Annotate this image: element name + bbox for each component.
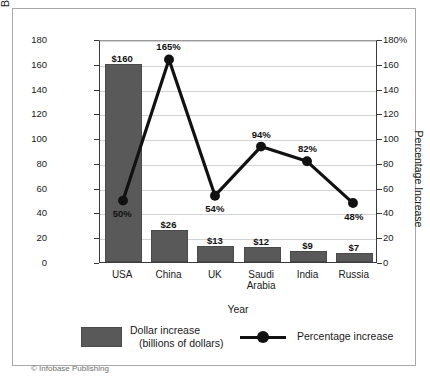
y-tick-right: 100 (383, 133, 429, 144)
y-tick-left: 40 (7, 207, 47, 218)
y-tick-mark-right (377, 164, 382, 165)
y-tick-left: 0 (7, 257, 47, 268)
x-axis-title: Year (99, 303, 377, 315)
line-value-label: 50% (92, 208, 152, 219)
y-tick-right: 60 (383, 183, 429, 194)
legend-bar-swatch (81, 327, 122, 347)
y-tick-left: 120 (7, 108, 47, 119)
chart-figure: Billions of U.S. Dollars Percentage Incr… (0, 0, 430, 381)
line-marker (164, 54, 174, 64)
line-value-label: 165% (139, 41, 199, 52)
line-marker (210, 191, 220, 201)
legend-bar-label: Dollar increase (billions of dollars) (130, 324, 224, 350)
line-marker (256, 142, 266, 152)
top-cutoff-text (60, 0, 170, 6)
y-tick-left: 20 (7, 232, 47, 243)
y-tick-mark-right (377, 238, 382, 239)
line-marker (118, 196, 128, 206)
line-value-label: 82% (278, 143, 338, 154)
y-tick-right: 40 (383, 207, 429, 218)
y-tick-left: 60 (7, 183, 47, 194)
y-tick-mark-right (377, 40, 382, 41)
y-tick-mark-right (377, 65, 382, 66)
legend-line-label: Percentage increase (297, 330, 393, 342)
y-tick-left: 160 (7, 59, 47, 70)
y-tick-left: 80 (7, 158, 47, 169)
y-tick-left: 140 (7, 84, 47, 95)
y-tick-left: 100 (7, 133, 47, 144)
legend-bar-label-line2: (billions of dollars) (130, 337, 224, 350)
y-tick-right: 180% (383, 34, 429, 45)
y-tick-mark-right (377, 114, 382, 115)
y-tick-right: 20 (383, 232, 429, 243)
chart-legend: Dollar increase (billions of dollars) Pe… (25, 322, 429, 362)
y-tick-right: 0 (383, 257, 429, 268)
bar-value-label: $160 (92, 53, 152, 64)
x-category-label: Russia (322, 269, 386, 280)
bar-value-label: $7 (324, 242, 384, 253)
y-tick-right: 140 (383, 84, 429, 95)
line-marker (348, 198, 358, 208)
line-value-label: 54% (185, 203, 245, 214)
y-tick-mark-right (377, 139, 382, 140)
line-marker (302, 156, 312, 166)
y-tick-right: 120 (383, 108, 429, 119)
copyright-notice: © Infobase Publishing (31, 364, 109, 373)
y-tick-mark-left (94, 263, 99, 264)
legend-bar-label-line1: Dollar increase (130, 324, 200, 336)
y-tick-right: 160 (383, 59, 429, 70)
line-value-label: 94% (231, 129, 291, 140)
chart-frame: Billions of U.S. Dollars Percentage Incr… (12, 8, 416, 366)
y-tick-right: 80 (383, 158, 429, 169)
y-tick-left: 180 (7, 34, 47, 45)
line-value-label: 48% (324, 211, 384, 222)
y-tick-mark-right (377, 90, 382, 91)
y-axis-left-title: Billions of U.S. Dollars (0, 0, 11, 55)
bar-value-label: $26 (139, 219, 199, 230)
y-tick-mark-right (377, 189, 382, 190)
y-tick-mark-right (377, 263, 382, 264)
